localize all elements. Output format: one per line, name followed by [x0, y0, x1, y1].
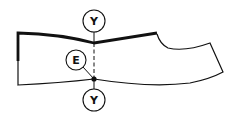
marker-y-bottom-label: Y — [89, 94, 99, 107]
marker-y-top-label: Y — [89, 15, 99, 28]
marker-y-bottom: Y — [83, 89, 105, 111]
pattern-diagram: Y E Y — [0, 0, 236, 121]
marker-e-label: E — [72, 54, 80, 67]
pattern-outline — [18, 33, 223, 85]
marker-y-top: Y — [83, 10, 105, 32]
join-dot — [91, 76, 96, 81]
pattern-top-edge — [18, 33, 157, 61]
marker-e: E — [66, 50, 86, 70]
